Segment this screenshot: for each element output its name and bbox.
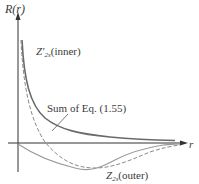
- x-axis-label: r: [189, 139, 193, 150]
- inner-curve-label: Z′2s(inner): [36, 46, 81, 59]
- outer-curve: [18, 144, 180, 170]
- outer-label-suffix: (outer): [118, 169, 148, 181]
- sum-curve-label: Sum of Eq. (1.55): [47, 103, 126, 114]
- outer-curve-label: Z2s(outer): [106, 170, 148, 183]
- radial-function-plot: [0, 0, 199, 184]
- x-axis-arrow-icon: [180, 141, 188, 146]
- inner-label-suffix: (inner): [51, 45, 81, 57]
- inner-label-symbol: Z′: [36, 45, 45, 57]
- y-axis-label: R(r): [5, 3, 25, 15]
